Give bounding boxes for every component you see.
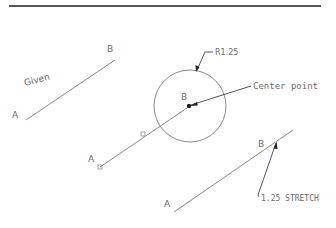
step3-point-a-label: A [164,199,171,209]
given-point-b-label: B [107,44,113,54]
step3-point-b-label: B [258,139,264,149]
stretch-callout-label: 1.25 STRETCH [261,194,319,203]
center-leader-line [191,86,251,105]
center-callout-label: Center point [253,81,318,91]
step2-point-b-label: B [181,92,187,102]
given-figure: Given A B [12,44,115,120]
circle-step-figure: A B R1.25 Center point [88,48,318,169]
grip-square-icon [141,132,145,136]
stretch-leader-line [258,143,276,197]
given-label: Given [23,72,51,88]
center-point-dot-icon [187,104,191,108]
drawing-canvas: Given A B A B R1.25 Center point A [0,0,336,228]
step2-point-a-label: A [88,154,95,164]
center-arrowhead-icon [190,102,198,106]
cad-drawing: Given A B A B R1.25 Center point A [0,0,336,228]
given-line-ab [26,60,115,120]
step2-line-ab [100,106,190,167]
radius-callout-label: R1.25 [215,48,238,57]
radius-leader-line [197,52,213,70]
given-point-a-label: A [12,110,19,120]
